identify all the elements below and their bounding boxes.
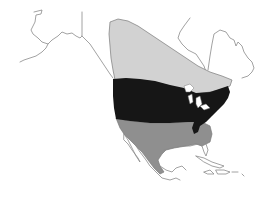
- caribbean-islands: [196, 156, 244, 176]
- range-map: North America: [0, 0, 271, 200]
- alaska-coastline: [20, 10, 113, 78]
